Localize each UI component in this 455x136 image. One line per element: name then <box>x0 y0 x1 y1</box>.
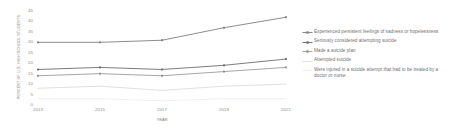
y-tick-label: 5 <box>31 92 33 96</box>
data-point-marker <box>223 27 225 29</box>
x-tick-label: 2015 <box>95 108 105 112</box>
legend-item[interactable]: Made a suicide plan <box>302 48 452 55</box>
legend-item-label: Experienced persistent feelings of sadne… <box>314 29 438 35</box>
legend-item-label: Were injured in a suicide attempt that h… <box>314 67 452 79</box>
y-tick-label: 15 <box>28 71 33 75</box>
x-tick-label: 2019 <box>219 108 229 112</box>
data-point-marker <box>223 71 225 73</box>
legend-marker-icon <box>302 58 313 65</box>
data-point-marker <box>161 75 163 77</box>
x-axis-title: YEAR <box>36 117 288 122</box>
data-point-marker <box>37 41 39 43</box>
legend-marker-icon <box>302 39 313 46</box>
y-tick-label: 40 <box>28 19 33 23</box>
data-point-marker <box>285 66 287 68</box>
data-point-marker <box>99 66 101 68</box>
legend-marker-icon <box>302 67 313 74</box>
data-point-marker <box>161 69 163 71</box>
y-tick-label: 35 <box>28 30 33 34</box>
legend-marker-icon <box>302 29 313 36</box>
legend-marker-icon <box>302 48 313 55</box>
data-point-marker <box>223 64 225 66</box>
data-point-marker <box>285 16 287 18</box>
series-line <box>38 84 286 90</box>
data-point-marker <box>99 73 101 75</box>
data-point-marker <box>285 58 287 60</box>
y-tick-label: 45 <box>28 9 33 13</box>
y-tick-label: 25 <box>28 51 33 55</box>
data-point-marker <box>37 69 39 71</box>
y-axis-tick-labels: 051015202530354045 <box>20 11 33 105</box>
legend-item[interactable]: Attempted suicide <box>302 57 452 64</box>
legend-item-label: Made a suicide plan <box>314 48 356 54</box>
legend-item[interactable]: Were injured in a suicide attempt that h… <box>302 67 452 79</box>
x-tick-label: 2017 <box>157 108 167 112</box>
series-group <box>37 16 287 43</box>
series-group <box>38 99 286 101</box>
legend-item[interactable]: Seriously considered attempting suicide <box>302 38 452 45</box>
data-point-marker <box>161 39 163 41</box>
series-line <box>38 99 286 101</box>
chart-legend: Experienced persistent feelings of sadne… <box>302 29 452 81</box>
series-group <box>37 58 287 70</box>
series-group <box>38 84 286 90</box>
line-chart: PERCENT OF U.S. HIGH SCHOOL STUDENTS 051… <box>0 0 455 136</box>
x-axis-tick-labels: 20132015201720192021 <box>36 108 288 117</box>
y-tick-label: 20 <box>28 61 33 65</box>
series-line <box>38 59 286 69</box>
y-tick-label: 30 <box>28 40 33 44</box>
legend-item[interactable]: Experienced persistent feelings of sadne… <box>302 29 452 36</box>
series-canvas <box>36 11 288 105</box>
series-line <box>38 17 286 42</box>
x-tick-label: 2013 <box>33 108 43 112</box>
legend-item-label: Seriously considered attempting suicide <box>314 38 397 44</box>
data-point-marker <box>99 41 101 43</box>
plot-area <box>36 11 288 105</box>
data-point-marker <box>37 75 39 77</box>
legend-item-label: Attempted suicide <box>314 57 351 63</box>
y-tick-label: 10 <box>28 82 33 86</box>
x-tick-label: 2021 <box>281 108 291 112</box>
